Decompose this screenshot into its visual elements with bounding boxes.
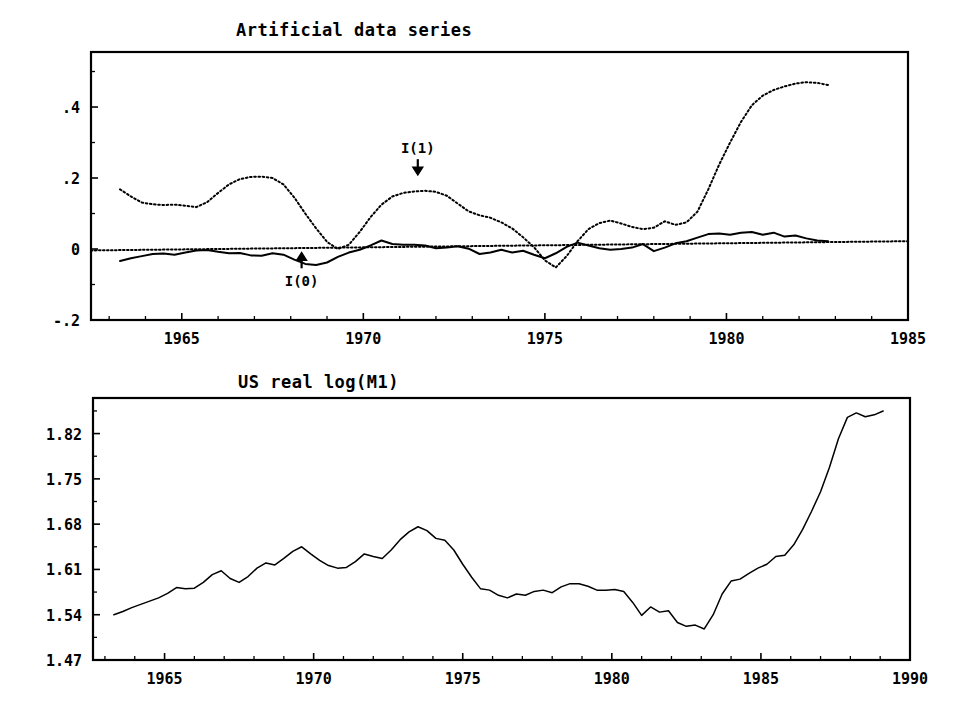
y-tick-label: 0 <box>71 241 80 259</box>
series-line-us-real-log-m1 <box>114 411 883 629</box>
x-tick-label: 1980 <box>708 330 744 348</box>
x-tick-label: 1975 <box>445 670 481 688</box>
x-tick-label: 1980 <box>594 670 630 688</box>
y-tick-label: -.2 <box>53 312 80 330</box>
x-tick-label: 1970 <box>345 330 381 348</box>
chart-panel-us-real-log-m1: US real log(M1) 196519701975198019851990… <box>0 360 956 720</box>
annotation-label: I(1) <box>401 140 435 156</box>
arrow-down-icon <box>414 168 422 175</box>
y-tick-label: 1.75 <box>46 471 82 489</box>
y-tick-label: .4 <box>62 99 80 117</box>
series-line-i-1 <box>120 82 828 267</box>
x-tick-label: 1970 <box>296 670 332 688</box>
x-tick-label: 1965 <box>146 670 182 688</box>
y-tick-label: 1.82 <box>46 426 82 444</box>
chart-panel-artificial-data-series: Artificial data series 19651970197519801… <box>0 0 956 360</box>
y-tick-label: 1.68 <box>46 516 82 534</box>
x-tick-label: 1985 <box>743 670 779 688</box>
annotation-i1: I(1) <box>401 140 435 174</box>
figure-root: Artificial data series 19651970197519801… <box>0 0 956 720</box>
y-tick-label: .2 <box>62 170 80 188</box>
x-tick-label: 1965 <box>164 330 200 348</box>
x-tick-label: 1975 <box>527 330 563 348</box>
arrow-up-icon <box>297 253 305 259</box>
plot-area-top: 19651970197519801985-.20.2.4I(1)I(0) <box>0 0 956 360</box>
y-tick-label: 1.61 <box>46 561 82 579</box>
plot-area-bottom: 1965197019751980198519901.471.541.611.68… <box>0 360 956 720</box>
reference-line <box>91 241 908 250</box>
annotation-label: I(0) <box>285 273 319 289</box>
x-tick-label: 1985 <box>890 330 926 348</box>
x-tick-label: 1990 <box>892 670 928 688</box>
y-tick-label: 1.47 <box>46 652 82 670</box>
y-tick-label: 1.54 <box>46 607 82 625</box>
